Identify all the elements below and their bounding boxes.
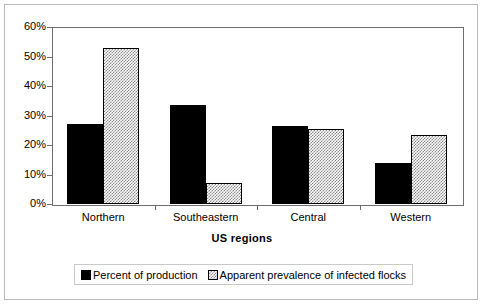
chart-legend: Percent of productionApparent prevalence…: [74, 264, 413, 285]
y-axis-tick-label: 40%: [0, 80, 46, 91]
bar-central-series-1: [308, 129, 344, 204]
x-axis-tick-label: Western: [360, 211, 463, 223]
y-axis-tick-mark: [47, 116, 52, 117]
bar-northern-series-1: [103, 48, 139, 204]
y-axis-tick-mark: [47, 204, 52, 205]
y-axis-tick-label: 30%: [0, 110, 46, 121]
legend-swatch-icon: [81, 270, 91, 280]
bar-northern-series-0: [67, 124, 103, 204]
y-axis-tick-label: 60%: [0, 21, 46, 32]
legend-entry-1: Apparent prevalence of infected flocks: [208, 269, 407, 281]
x-axis-title: US regions: [0, 232, 484, 244]
y-axis-tick-label: 10%: [0, 169, 46, 180]
x-axis-tick-mark: [257, 205, 258, 210]
x-axis-tick-label: Central: [257, 211, 360, 223]
y-axis-tick-label: 50%: [0, 51, 46, 62]
bar-southeastern-series-0: [170, 105, 206, 204]
bar-western-series-1: [411, 135, 447, 204]
y-axis-tick-mark: [47, 86, 52, 87]
y-axis-tick-mark: [47, 57, 52, 58]
legend-entry-0: Percent of production: [81, 269, 198, 281]
y-axis-tick-label: 20%: [0, 139, 46, 150]
x-axis-tick-label: Northern: [52, 211, 155, 223]
bar-central-series-0: [272, 126, 308, 204]
bar-western-series-0: [375, 163, 411, 204]
x-axis-tick-label: Southeastern: [155, 211, 258, 223]
legend-swatch-icon: [208, 270, 218, 280]
y-axis-tick-labels: 0%10%20%30%40%50%60%: [0, 0, 46, 306]
x-axis-tick-mark: [360, 205, 361, 210]
bar-southeastern-series-1: [206, 183, 242, 204]
x-axis-tick-mark: [155, 205, 156, 210]
legend-label: Apparent prevalence of infected flocks: [220, 269, 407, 281]
y-axis-tick-mark: [47, 175, 52, 176]
legend-label: Percent of production: [93, 269, 198, 281]
bar-chart-figure: 0%10%20%30%40%50%60% NorthernSoutheaster…: [0, 0, 484, 306]
y-axis-tick-mark: [47, 145, 52, 146]
y-axis-tick-mark: [47, 27, 52, 28]
y-axis-tick-label: 0%: [0, 198, 46, 209]
